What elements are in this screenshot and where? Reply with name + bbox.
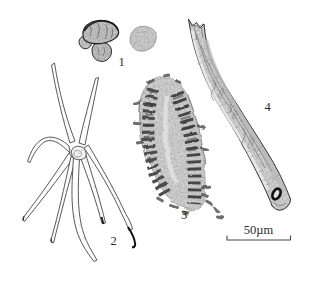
specimen-1-label: 1 bbox=[119, 55, 125, 69]
specimen-4-label: 4 bbox=[265, 100, 272, 114]
specimen-2-label: 2 bbox=[111, 234, 117, 248]
scale-bar-label: 50µm bbox=[244, 223, 274, 237]
scale-bar: 50µm bbox=[227, 223, 291, 240]
specimen-3-reticulate-vessel bbox=[133, 73, 223, 219]
specimen-2-stellate-trichome bbox=[23, 63, 136, 262]
figure-plate: 1 2 bbox=[0, 0, 314, 282]
specimen-3-label: 3 bbox=[181, 208, 187, 222]
micrograph-figure: 1 2 bbox=[0, 0, 314, 282]
